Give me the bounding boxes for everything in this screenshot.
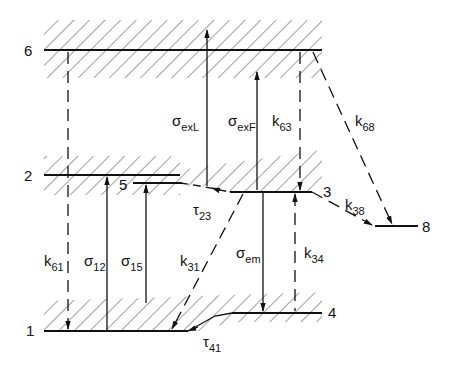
band-2-3 — [44, 150, 322, 195]
level-2-label: 2 — [24, 167, 32, 184]
band-1-4 — [44, 292, 322, 331]
level-6-label: 6 — [24, 42, 32, 59]
sigma-exF-label: σexF — [228, 112, 256, 133]
sigma15-label: σ15 — [121, 252, 143, 273]
k34-label: k34 — [304, 244, 324, 265]
k68-label: k68 — [355, 112, 375, 133]
level-4-label: 4 — [328, 304, 336, 321]
level-5-label: 5 — [119, 176, 127, 193]
energy-level-diagram: 6 2 5 3 8 1 4 — [0, 0, 454, 368]
level-8-label: 8 — [422, 218, 430, 235]
k61-label: k61 — [44, 252, 64, 273]
tau41-label: τ41 — [203, 333, 221, 354]
k38-label: k38 — [345, 196, 365, 217]
level-3-label: 3 — [323, 183, 331, 200]
sigma-em-label: σem — [236, 244, 261, 265]
tau23-label: τ23 — [193, 201, 211, 222]
k31-label: k31 — [180, 252, 200, 273]
sigma12-label: σ12 — [84, 252, 106, 273]
k63-label: k63 — [272, 112, 292, 133]
sigma-exL-label: σexL — [172, 112, 199, 133]
level-1-label: 1 — [26, 322, 34, 339]
